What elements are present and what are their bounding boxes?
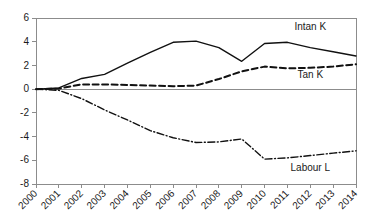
x-axis-tick-label: 2008 bbox=[199, 187, 223, 211]
y-axis-ticks: 6420-2-4-6-8 bbox=[20, 12, 36, 189]
x-axis-tick-label: 2000 bbox=[16, 187, 40, 211]
series-line-labour-l bbox=[36, 89, 356, 159]
y-axis-tick-label: -4 bbox=[20, 131, 29, 142]
y-axis-tick-label: -8 bbox=[20, 178, 29, 189]
x-axis-tick-label: 2011 bbox=[268, 187, 291, 210]
series-label-group: Intan KTan KLabour L bbox=[291, 21, 331, 173]
series-label-tan-k: Tan K bbox=[297, 69, 323, 80]
y-axis-tick-label: -2 bbox=[20, 107, 29, 118]
line-chart-canvas: 6420-2-4-6-8 200020012002200320042005200… bbox=[0, 0, 368, 224]
x-axis-tick-label: 2010 bbox=[244, 187, 268, 211]
series-line-intan-k bbox=[36, 41, 356, 89]
y-axis-tick-label: 2 bbox=[23, 60, 29, 71]
x-axis-tick-label: 2012 bbox=[290, 187, 314, 211]
plot-frame bbox=[36, 18, 356, 184]
chart-figure: 6420-2-4-6-8 200020012002200320042005200… bbox=[0, 0, 368, 224]
x-axis-tick-label: 2001 bbox=[39, 187, 63, 211]
x-axis-tick-label: 2014 bbox=[336, 187, 360, 211]
x-axis-tick-label: 2007 bbox=[176, 187, 200, 211]
series-label-intan-k: Intan K bbox=[294, 21, 326, 32]
x-axis-tick-label: 2002 bbox=[62, 187, 86, 211]
x-axis-ticks: 2000200120022003200420052006200720082009… bbox=[16, 184, 360, 211]
y-axis-tick-label: -6 bbox=[20, 154, 29, 165]
x-axis-tick-label: 2013 bbox=[313, 187, 337, 211]
y-axis-tick-label: 0 bbox=[23, 83, 29, 94]
x-axis-tick-label: 2005 bbox=[130, 187, 154, 211]
x-axis-tick-label: 2003 bbox=[84, 187, 108, 211]
y-axis-tick-label: 4 bbox=[23, 36, 29, 47]
x-axis-tick-label: 2006 bbox=[153, 187, 177, 211]
y-axis-tick-label: 6 bbox=[23, 12, 29, 23]
x-axis-tick-label: 2004 bbox=[107, 187, 131, 211]
series-label-labour-l: Labour L bbox=[291, 162, 331, 173]
data-series-group bbox=[36, 41, 356, 159]
x-axis-tick-label: 2009 bbox=[222, 187, 246, 211]
